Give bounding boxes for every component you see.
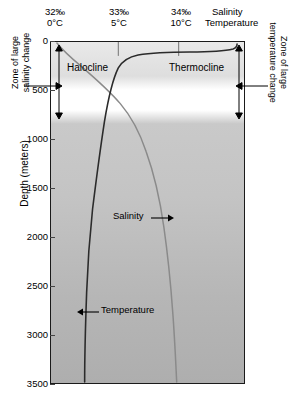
top-scale-name-salinity: Salinity [212, 6, 243, 17]
halocline-label: Halocline [67, 62, 108, 73]
ytick-mark-1500 [50, 188, 55, 189]
zone-right-line2: temperature change [268, 22, 278, 103]
ytick-label-1000: 1000 [27, 134, 48, 144]
plot-area: Halocline Thermocline Salinity Temperatu… [50, 41, 245, 384]
top-tick-group-2: 33‰ 5°C [95, 6, 143, 28]
top-tick-salinity-2: 33‰ [95, 6, 143, 17]
top-tick-temperature-2: 5°C [95, 17, 143, 28]
zone-right-line1: Zone of large [279, 36, 289, 89]
salinity-annotation-label: Salinity [113, 210, 144, 221]
top-tick-temperature-3: 10°C [155, 17, 207, 28]
ytick-mark-500 [50, 90, 55, 91]
ytick-mark-3000 [50, 335, 55, 336]
ytick-label-2500: 2500 [27, 281, 48, 291]
temperature-annotation-label: Temperature [101, 304, 154, 315]
temperature-arrow-icon [77, 306, 99, 318]
ytick-label-2000: 2000 [27, 232, 48, 242]
ytick-mark-2000 [50, 237, 55, 238]
ytick-label-3000: 3000 [27, 330, 48, 340]
ytick-label-3500: 3500 [27, 379, 48, 389]
salinity-arrow-icon [151, 212, 175, 224]
zone-of-large-salinity-change-label: Zone of large salinity change [10, 17, 31, 109]
zone-of-large-temperature-change-label: Zone of large temperature change [268, 17, 289, 109]
zone-left-line1: Zone of large [10, 36, 20, 89]
ytick-mark-3500 [50, 384, 55, 385]
top-tick-group-3: 34‰ 10°C [155, 6, 207, 28]
top-scale-name-temperature: Temperature [205, 17, 258, 28]
depth-axis-title: Depth (meters) [19, 124, 30, 224]
salinity-temperature-depth-profile-chart: 32‰ 0°C 33‰ 5°C 34‰ 10°C Salinity Temper… [0, 0, 297, 400]
zone-left-line2: salinity change [20, 33, 30, 93]
ytick-label-500: 500 [32, 85, 48, 95]
ytick-mark-0 [50, 41, 55, 42]
ytick-label-0: 0 [43, 36, 48, 46]
ytick-mark-1000 [50, 139, 55, 140]
ytick-mark-2500 [50, 286, 55, 287]
curves-svg [51, 42, 244, 383]
top-tick-salinity-3: 34‰ [155, 6, 207, 17]
ytick-label-1500: 1500 [27, 183, 48, 193]
thermocline-label: Thermocline [169, 62, 224, 73]
